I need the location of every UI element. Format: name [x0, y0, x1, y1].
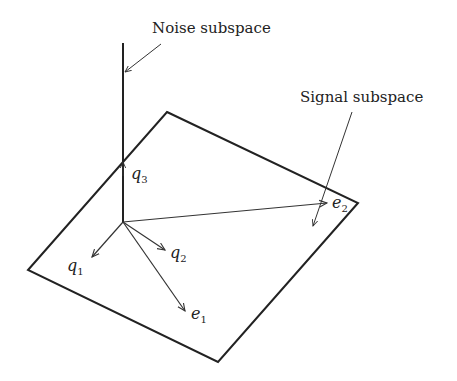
e1-label: e1: [191, 304, 207, 325]
q1-label: q1: [67, 256, 84, 277]
signal-plane: [28, 112, 358, 362]
q1-arrow: [92, 222, 123, 257]
e2-arrow: [123, 203, 327, 222]
e1-arrow: [123, 222, 185, 311]
noise-subspace-label: Noise subspace: [152, 19, 271, 37]
q3-label: q3: [131, 164, 148, 185]
signal-subspace-label: Signal subspace: [300, 88, 423, 106]
q2-arrow: [123, 222, 165, 250]
q2-label: q2: [170, 243, 187, 264]
subspace-diagram: Noise subspace Signal subspace q3 e2 q1 …: [0, 0, 457, 381]
noise-pointer-arrow: [125, 44, 161, 72]
